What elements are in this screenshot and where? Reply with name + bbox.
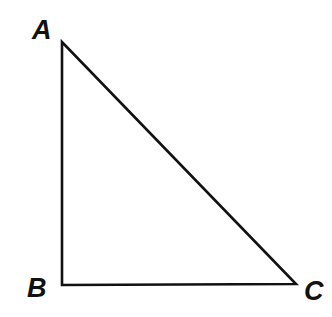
vertex-label-b: B [27, 275, 47, 302]
vertex-label-a: A [32, 17, 52, 44]
triangle-drawing [0, 0, 332, 317]
geometry-figure-canvas: A B C [0, 0, 332, 317]
vertex-label-c: C [304, 278, 324, 305]
triangle-abc [62, 42, 296, 285]
